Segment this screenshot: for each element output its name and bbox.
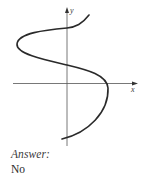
- curve: [17, 15, 108, 139]
- answer-label: Answer:: [11, 148, 50, 160]
- x-axis-label: x: [130, 85, 135, 94]
- y-axis-arrow-icon: [65, 7, 69, 13]
- graph-figure: x y: [0, 0, 143, 150]
- y-axis-label: y: [69, 6, 74, 15]
- answer-value: No: [11, 163, 25, 175]
